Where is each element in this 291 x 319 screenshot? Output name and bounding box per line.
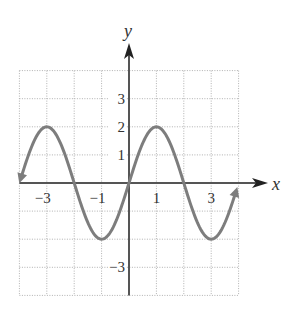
y-tick-label: −3 — [109, 259, 125, 275]
x-tick-label: −1 — [90, 190, 106, 206]
axes: x y — [19, 21, 280, 295]
y-axis-label: y — [122, 21, 132, 41]
curve-right-arrow-icon — [230, 187, 240, 198]
x-tick-label: 1 — [153, 190, 161, 206]
sine-graph: x y −3−113321−3 — [0, 0, 291, 319]
x-tick-label: 3 — [207, 190, 215, 206]
x-tick-label: −3 — [35, 190, 51, 206]
x-axis-label: x — [271, 174, 280, 194]
y-tick-label: 2 — [118, 119, 126, 135]
curve-left-arrow-icon — [17, 172, 27, 183]
y-tick-label: 1 — [118, 147, 126, 163]
y-tick-label: 3 — [118, 91, 126, 107]
